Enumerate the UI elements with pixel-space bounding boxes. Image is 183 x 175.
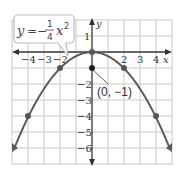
point-neg4-neg4 [25, 113, 31, 119]
point-vertex [89, 49, 95, 55]
annotation-leader-line [93, 70, 108, 84]
equation-minus: − [37, 24, 47, 38]
y-tick: −2 [77, 79, 92, 90]
y-tick: −4 [77, 111, 92, 122]
equation-variable: x [56, 23, 64, 38]
focus-point [89, 65, 95, 71]
y-axis-up-arrow [89, 18, 95, 25]
y-tick: −5 [77, 127, 92, 138]
y-axis-down-arrow [89, 159, 95, 166]
y-tick: −3 [77, 95, 92, 106]
x-tick: 4 [153, 54, 159, 65]
equation-denominator: 4 [47, 32, 53, 42]
x-tick: −4 [21, 54, 36, 65]
point-neg2-neg1 [57, 65, 63, 71]
x-tick: 2 [121, 54, 127, 65]
equation-lhs: y [16, 23, 25, 38]
y-tick: 1 [84, 31, 90, 42]
focus-annotation: (0, −1) [97, 85, 132, 99]
equation-numerator: 1 [47, 19, 53, 29]
point-4-neg4 [153, 113, 159, 119]
parabola-graph: y x −4 −3 −2 2 3 4 1 −2 −3 −4 −5 −6 (0, … [0, 0, 183, 175]
y-axis-label: y [95, 18, 102, 29]
x-tick: 3 [137, 54, 143, 65]
equation-exponent: 2 [64, 22, 69, 31]
equation-equals: = [27, 24, 37, 38]
y-tick: −6 [77, 143, 92, 154]
x-tick: −3 [37, 54, 52, 65]
x-axis-left-arrow [12, 49, 19, 55]
point-2-neg1 [121, 65, 127, 71]
x-axis-label: x [163, 54, 169, 65]
